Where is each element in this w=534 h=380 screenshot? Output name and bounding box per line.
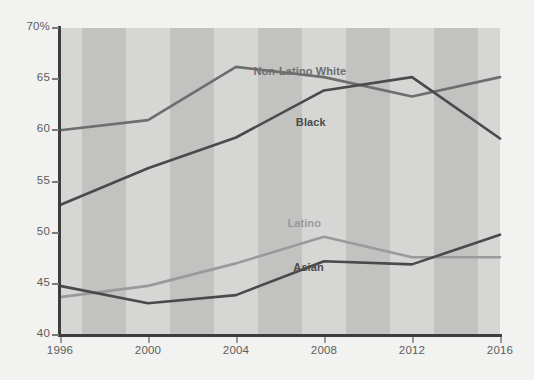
y-tick-label: 55 [0, 174, 50, 186]
y-tick-label: 45 [0, 276, 50, 288]
x-tick-label: 2004 [206, 344, 266, 356]
x-tick-mark [148, 337, 150, 343]
x-tick-mark [236, 337, 238, 343]
x-tick-label: 2008 [294, 344, 354, 356]
x-tick-label: 2000 [118, 344, 178, 356]
y-tick-label: 50 [0, 225, 50, 237]
line-series [60, 235, 500, 304]
x-tick-label: 1996 [30, 344, 90, 356]
line-series [60, 77, 500, 205]
x-tick-mark [500, 337, 502, 343]
x-tick-label: 2012 [382, 344, 442, 356]
series-label-non-latino-white: Non-Latino White [253, 65, 346, 77]
x-tick-mark [60, 337, 62, 343]
series-label-latino: Latino [287, 217, 321, 229]
y-tick-label: 70% [0, 20, 50, 32]
x-tick-label: 2016 [470, 344, 530, 356]
x-tick-mark [324, 337, 326, 343]
y-tick-label: 65 [0, 71, 50, 83]
y-tick-mark [52, 334, 59, 336]
y-tick-mark [52, 129, 59, 131]
y-tick-mark [52, 181, 59, 183]
y-tick-label: 40 [0, 327, 50, 339]
series-label-black: Black [296, 116, 326, 128]
y-tick-label: 60 [0, 122, 50, 134]
chart-figure: 70%656055504540 199620002004200820122016… [0, 0, 534, 380]
y-tick-mark [52, 232, 59, 234]
line-series [60, 237, 500, 297]
y-tick-mark [52, 27, 59, 29]
series-label-asian: Asian [293, 261, 323, 273]
x-axis [58, 334, 502, 337]
y-tick-mark [52, 283, 59, 285]
x-tick-mark [412, 337, 414, 343]
y-tick-mark [52, 78, 59, 80]
